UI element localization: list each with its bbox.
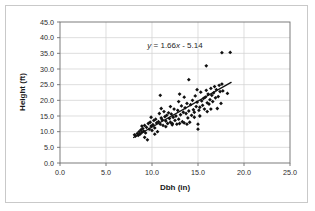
- data-point: [158, 93, 162, 97]
- equation-operator: = 1.66: [151, 41, 176, 50]
- data-point: [213, 85, 217, 89]
- data-point: [208, 98, 212, 102]
- data-point: [199, 90, 203, 94]
- data-point: [153, 132, 157, 136]
- data-point: [218, 90, 222, 94]
- data-point: [178, 92, 182, 96]
- data-point: [204, 64, 208, 68]
- data-points: [133, 50, 232, 141]
- x-axis-tick-label: 25.0: [283, 168, 297, 177]
- y-axis-tick-label: 5.0: [44, 143, 54, 152]
- y-axis-tick-label: 0.0: [44, 159, 54, 168]
- data-point: [196, 127, 200, 131]
- y-axis-tick-label: 25.0: [40, 80, 54, 89]
- data-point: [220, 51, 224, 55]
- regression-trend-line: [134, 82, 232, 137]
- data-point: [182, 95, 186, 99]
- y-axis-tick-label: 40.0: [40, 33, 54, 42]
- y-axis-tick-label: 20.0: [40, 96, 54, 105]
- data-point: [187, 109, 191, 113]
- data-point: [228, 50, 232, 54]
- data-point: [188, 120, 192, 124]
- x-axis-tick-label: 0.0: [55, 168, 65, 177]
- data-point: [185, 102, 189, 106]
- x-axis-title: Dbh (in): [160, 183, 191, 192]
- data-point: [198, 105, 202, 109]
- data-point: [169, 105, 173, 109]
- x-axis-tick-label: 15.0: [191, 168, 205, 177]
- data-point: [186, 116, 190, 120]
- data-point: [146, 138, 150, 142]
- data-point: [172, 107, 176, 111]
- data-point: [209, 107, 213, 111]
- data-point: [205, 110, 209, 114]
- data-point: [221, 89, 225, 93]
- y-axis-title: Height (ft): [18, 73, 27, 111]
- y-axis-tick-labels: 0.05.010.015.020.025.030.035.040.045.0: [40, 18, 54, 168]
- regression-equation-annotation: y = 1.66x - 5.14: [146, 41, 203, 50]
- data-point: [193, 94, 197, 98]
- data-point: [196, 122, 200, 126]
- data-point: [159, 107, 163, 111]
- y-axis-tick-label: 35.0: [40, 49, 54, 58]
- data-point: [156, 130, 160, 134]
- y-axis-tick-label: 10.0: [40, 127, 54, 136]
- data-point: [204, 88, 208, 92]
- scatter-plot: 0.05.010.015.020.025.030.035.040.045.0 0…: [0, 0, 315, 211]
- x-axis-tick-label: 10.0: [145, 168, 159, 177]
- x-axis-tick-label: 5.0: [101, 168, 111, 177]
- data-point: [187, 78, 191, 82]
- data-point: [198, 114, 202, 118]
- equation-tail: - 5.14: [180, 41, 203, 50]
- y-axis-tick-label: 15.0: [40, 112, 54, 121]
- data-point: [203, 107, 207, 111]
- x-axis-tick-label: 20.0: [237, 168, 251, 177]
- data-point: [173, 118, 177, 122]
- x-axis-tick-labels: 0.05.010.015.020.025.0: [55, 168, 297, 177]
- y-axis-tick-label: 30.0: [40, 65, 54, 74]
- data-point: [190, 113, 194, 117]
- data-point: [180, 104, 184, 108]
- data-point: [194, 105, 198, 109]
- data-point: [197, 108, 201, 112]
- data-point: [201, 103, 205, 107]
- data-point: [226, 92, 230, 96]
- data-point: [162, 110, 166, 114]
- data-point: [178, 122, 182, 126]
- data-point: [215, 107, 219, 111]
- data-point: [219, 102, 223, 106]
- data-point: [191, 98, 195, 102]
- data-point: [177, 117, 181, 121]
- data-point: [209, 87, 213, 91]
- data-point: [175, 122, 179, 126]
- chart-figure: 0.05.010.015.020.025.030.035.040.045.0 0…: [0, 0, 315, 211]
- y-axis-tick-label: 45.0: [40, 18, 54, 27]
- data-point: [143, 135, 147, 139]
- data-point: [195, 88, 199, 92]
- data-point: [157, 112, 161, 116]
